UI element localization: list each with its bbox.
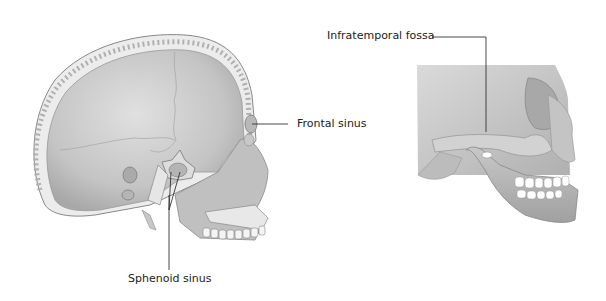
label-frontal-sinus: Frontal sinus <box>297 117 367 130</box>
skull-sagittal-illustration <box>34 35 268 240</box>
label-infratemporal-fossa: Infratemporal fossa <box>327 29 434 42</box>
diagram-canvas <box>0 0 606 301</box>
skull-lateral-illustration <box>417 65 578 222</box>
label-sphenoid-sinus: Sphenoid sinus <box>128 272 211 285</box>
